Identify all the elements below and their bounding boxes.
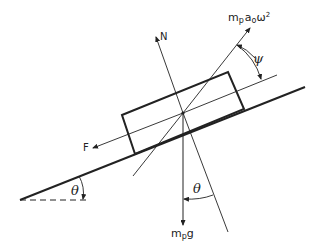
incline-angle-arc [79, 176, 84, 199]
free-body-diagram: θ θ ψ N F mpaoω2 mpg [0, 0, 322, 247]
incline-angle-label: θ [71, 183, 79, 198]
normal-force-arrow [156, 37, 183, 113]
friction-force-label: F [83, 142, 89, 153]
center-of-mass [181, 111, 184, 114]
weight-label: mpg [171, 227, 194, 241]
weight-angle-label: θ [193, 181, 201, 196]
centrifugal-force-label: mpaoω2 [228, 11, 270, 25]
normal-force-label: N [160, 31, 167, 42]
force-angle-label: ψ [253, 51, 264, 66]
incline-parallel-axis [183, 75, 277, 113]
normal-axis-extension [183, 113, 228, 232]
